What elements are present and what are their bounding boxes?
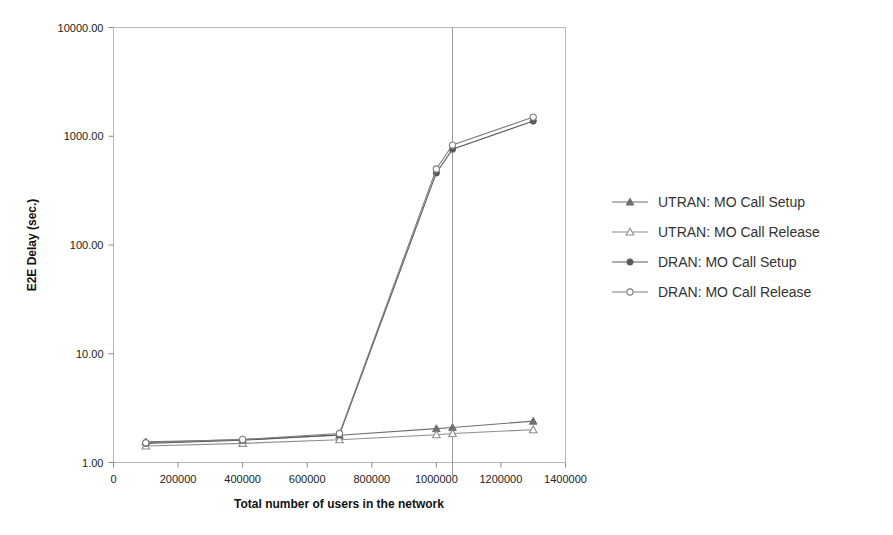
y-tick-label: 100.00 (70, 239, 104, 251)
x-tick-label: 0 (110, 473, 116, 485)
data-point-marker (240, 436, 246, 442)
legend-label: DRAN: MO Call Release (658, 284, 811, 300)
data-point-marker (143, 440, 149, 446)
y-tick-label: 10.00 (76, 348, 104, 360)
x-tick-label: 600000 (289, 473, 326, 485)
x-tick-label: 1400000 (544, 473, 587, 485)
data-point-marker (449, 142, 455, 148)
line-chart: 1.0010.00100.001000.0010000.00 020000040… (0, 0, 893, 535)
y-tick-label: 1.00 (82, 457, 103, 469)
data-point-marker (627, 259, 633, 265)
y-tick-label: 10000.00 (58, 22, 104, 34)
chart-figure: 1.0010.00100.001000.0010000.00 020000040… (0, 0, 893, 535)
data-point-marker (530, 114, 536, 120)
x-tick-label: 200000 (160, 473, 197, 485)
legend-label: UTRAN: MO Call Setup (658, 194, 805, 210)
y-axis-title: E2E Delay (sec.) (25, 199, 39, 292)
x-tick-label: 400000 (224, 473, 261, 485)
legend-label: UTRAN: MO Call Release (658, 224, 820, 240)
y-tick-label: 1000.00 (64, 130, 104, 142)
data-point-marker (627, 289, 633, 295)
x-tick-label: 800000 (353, 473, 390, 485)
x-tick-label: 1200000 (480, 473, 523, 485)
data-point-marker (433, 166, 439, 172)
x-tick-label: 1000000 (415, 473, 458, 485)
legend-label: DRAN: MO Call Setup (658, 254, 797, 270)
x-axis-title: Total number of users in the network (234, 497, 444, 511)
data-point-marker (336, 430, 342, 436)
